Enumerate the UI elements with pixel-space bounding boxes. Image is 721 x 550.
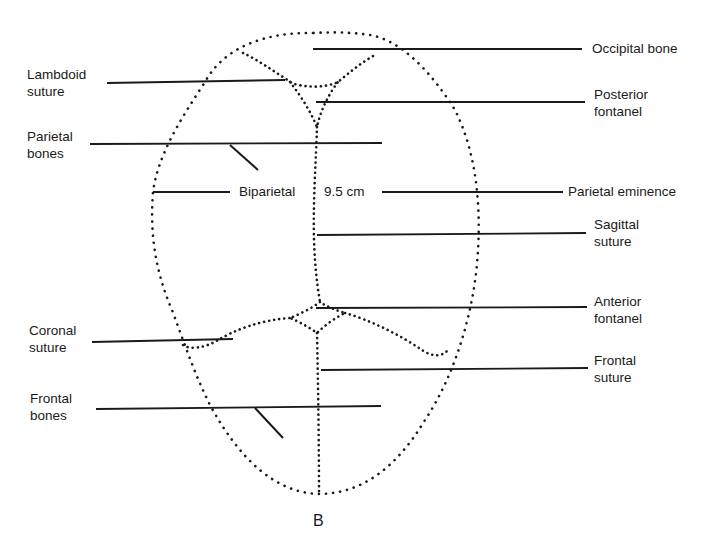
label-occipital-bone: Occipital bone bbox=[592, 40, 678, 57]
leader-parietal-bones bbox=[90, 143, 382, 144]
pointer-parietal-bones bbox=[230, 145, 258, 170]
label-lambdoid-suture: Lambdoid suture bbox=[27, 66, 86, 100]
label-biparietal: Biparietal bbox=[239, 183, 295, 200]
coronal-suture-left bbox=[183, 318, 290, 348]
lambdoid-suture-curve bbox=[243, 53, 375, 87]
posterior-fontanel-shape bbox=[290, 82, 338, 127]
leader-frontal-suture bbox=[321, 368, 588, 370]
label-parietal-bones: Parietal bones bbox=[27, 128, 73, 162]
sagittal-suture-line bbox=[314, 127, 320, 302]
leader-lambdoid-suture bbox=[107, 80, 285, 83]
figure-caption: B bbox=[313, 512, 324, 530]
anterior-fontanel-shape bbox=[290, 302, 345, 333]
fetal-skull-diagram bbox=[0, 0, 721, 550]
pointer-frontal-bones bbox=[255, 408, 283, 438]
leader-coronal-suture bbox=[92, 339, 233, 342]
leader-sagittal-suture bbox=[317, 233, 586, 235]
label-posterior-fontanel: Posterior fontanel bbox=[594, 86, 648, 120]
label-frontal-bones: Frontal bones bbox=[30, 390, 72, 424]
label-anterior-fontanel: Anterior fontanel bbox=[594, 293, 642, 327]
leader-frontal-bones bbox=[96, 406, 381, 409]
label-sagittal-suture: Sagittal suture bbox=[594, 216, 639, 250]
coronal-suture-right bbox=[345, 313, 448, 355]
label-biparietal-measurement: 9.5 cm bbox=[324, 183, 365, 200]
label-parietal-eminence: Parietal eminence bbox=[568, 183, 676, 200]
label-coronal-suture: Coronal suture bbox=[29, 322, 76, 356]
label-frontal-suture: Frontal suture bbox=[594, 352, 636, 386]
frontal-suture-line bbox=[317, 333, 319, 494]
leader-anterior-fontanel bbox=[316, 307, 587, 308]
